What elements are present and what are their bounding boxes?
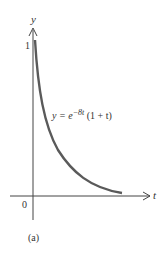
y-tick-one: 1 xyxy=(25,40,30,51)
figure-caption: (a) xyxy=(28,232,39,243)
y-axis-label: y xyxy=(31,13,36,25)
equation-factor: (1 + t) xyxy=(84,110,112,121)
x-axis-label: t xyxy=(153,189,156,201)
origin-label: 0 xyxy=(22,199,27,210)
equation-exponent: −8t xyxy=(73,108,85,117)
equation-base: y = e xyxy=(52,110,73,121)
equation-annotation: y = e−8t (1 + t) xyxy=(52,108,112,121)
plot-canvas xyxy=(0,0,165,255)
